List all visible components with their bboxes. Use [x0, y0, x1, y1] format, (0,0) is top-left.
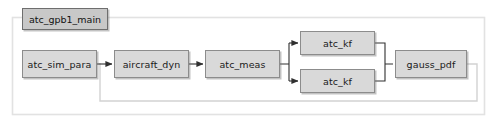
block-aircraft-dyn[interactable]: aircraft_dyn [114, 50, 189, 78]
block-gauss-pdf[interactable]: gauss_pdf [395, 50, 467, 78]
block-label: atc_meas [219, 59, 265, 70]
block-label: atc_kf [323, 76, 352, 87]
block-label: atc_sim_para [28, 59, 92, 70]
block-label: atc_kf [323, 38, 352, 49]
block-atc-kf-top[interactable]: atc_kf [300, 31, 375, 55]
block-atc-kf-bottom[interactable]: atc_kf [300, 69, 375, 93]
block-atc-meas[interactable]: atc_meas [205, 50, 280, 78]
block-label: aircraft_dyn [123, 59, 181, 70]
block-label: gauss_pdf [407, 59, 456, 70]
subsystem-title-label: atc_gpb1_main [29, 14, 101, 25]
wire-atc-meas-split [280, 43, 289, 81]
subsystem-title-chip[interactable]: atc_gpb1_main [22, 8, 108, 30]
block-atc-sim-para[interactable]: atc_sim_para [22, 50, 97, 78]
wire-kf-merge-to-gauss-pdf [375, 43, 393, 81]
block-diagram-canvas: atc_gpb1_main atc_sim_para aircraft_dyn … [0, 0, 497, 127]
